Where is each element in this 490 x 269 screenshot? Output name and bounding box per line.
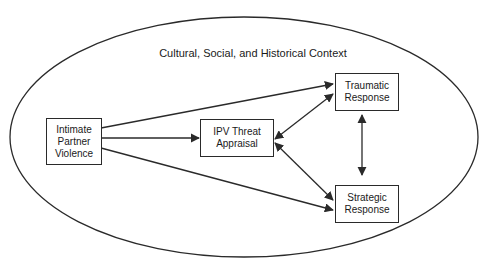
node-text: Strategic — [347, 192, 386, 204]
node-text: Response — [344, 92, 389, 104]
context-label: Cultural, Social, and Historical Context — [120, 46, 386, 60]
node-text: Traumatic — [345, 80, 389, 92]
node-ipv-threat-appraisal: IPV Threat Appraisal — [200, 119, 274, 157]
edge-ipv-strategic — [101, 148, 333, 210]
node-text: Violence — [55, 148, 93, 160]
edge-appraisal-strategic — [275, 143, 333, 200]
node-strategic-response: Strategic Response — [335, 185, 399, 223]
node-traumatic-response: Traumatic Response — [335, 73, 399, 111]
node-intimate-partner-violence: Intimate Partner Violence — [46, 118, 102, 165]
edge-appraisal-traumatic — [275, 94, 333, 139]
node-text: Partner — [58, 136, 91, 148]
node-text: Response — [344, 204, 389, 216]
node-text: Intimate — [56, 124, 92, 136]
node-text: Appraisal — [216, 138, 258, 150]
node-text: IPV Threat — [213, 126, 261, 138]
